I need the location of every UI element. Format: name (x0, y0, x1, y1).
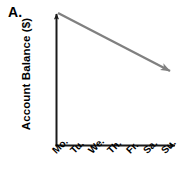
data-series-arrow (58, 13, 170, 71)
plot-area (0, 0, 184, 175)
chart-figure: A. Account Balance ($) Mo. Tu. We. Th. F… (0, 0, 184, 175)
